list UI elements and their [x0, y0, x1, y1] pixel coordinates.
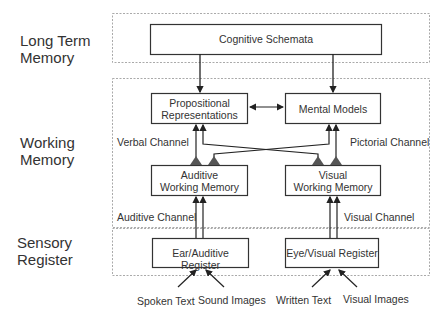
- triangle-icon: [330, 156, 342, 165]
- triangle-icon: [312, 156, 324, 165]
- working-memory-label: Working Memory: [20, 134, 75, 168]
- pictorial-channel-label: Pictorial Channel: [350, 136, 429, 148]
- eye-register-text: Eye/Visual Register: [285, 247, 379, 259]
- sensory-register-label: Sensory Register: [17, 234, 73, 268]
- label-line: Working: [20, 134, 75, 151]
- text-line: Propositional: [151, 97, 248, 109]
- text-line: Auditive: [151, 169, 248, 181]
- text-line: Working Memory: [285, 181, 381, 193]
- text-line: Working Memory: [151, 181, 248, 193]
- input-spoken-text: Spoken Text: [137, 295, 195, 307]
- visual-channel-label: Visual Channel: [344, 211, 414, 223]
- label-line: Register: [17, 251, 73, 268]
- input-visual-images: Visual Images: [343, 293, 409, 305]
- input-sound-images: Sound Images: [198, 294, 266, 306]
- arrow-visual-images: [339, 270, 357, 287]
- ear-register-text: Ear/Auditive Register: [152, 247, 249, 271]
- auditive-channel-label: Auditive Channel: [117, 211, 196, 223]
- verbal-channel-label: Verbal Channel: [117, 136, 189, 148]
- long-term-memory-label: Long Term Memory: [20, 32, 91, 66]
- text-line: Representations: [151, 109, 248, 121]
- mental-models-text: Mental Models: [285, 103, 381, 115]
- label-line: Long Term: [20, 32, 91, 49]
- visual-wm-text: Visual Working Memory: [285, 169, 381, 193]
- label-line: Memory: [20, 49, 91, 66]
- arrow-written-text: [312, 270, 330, 287]
- cognitive-schemata-text: Cognitive Schemata: [150, 33, 382, 45]
- auditive-wm-text: Auditive Working Memory: [151, 169, 248, 193]
- triangle-icon: [208, 156, 220, 165]
- label-line: Sensory: [17, 234, 73, 251]
- arrow-spoken-text: [178, 270, 196, 287]
- propositional-text: Propositional Representations: [151, 97, 248, 121]
- text-line: Visual: [285, 169, 381, 181]
- input-written-text: Written Text: [276, 294, 331, 306]
- arrow-sound-images: [206, 270, 224, 287]
- triangle-icon: [190, 156, 202, 165]
- label-line: Memory: [20, 151, 75, 168]
